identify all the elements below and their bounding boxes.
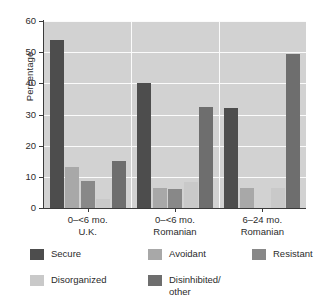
x-axis-tick-label: 0–<6 mo.U.K. [40, 214, 136, 237]
y-axis-tick-label: 10 [0, 171, 36, 182]
gridline [44, 146, 306, 147]
gridline [44, 115, 306, 116]
legend-swatch [30, 249, 44, 260]
x-label-line-1: 0–<6 mo. [40, 214, 136, 226]
chart-legend: SecureAvoidantResistantDisorganizedDisin… [30, 248, 318, 304]
y-axis-tick [39, 83, 44, 84]
legend-swatch [30, 275, 44, 286]
y-axis-tick [39, 146, 44, 147]
y-axis-tick [39, 177, 44, 178]
bar [240, 188, 254, 208]
plot-area [44, 21, 306, 208]
x-axis-tick-label: 6–24 mo.Romanian [214, 214, 310, 237]
bar [50, 40, 64, 208]
gridline [44, 83, 306, 84]
gridline [44, 21, 306, 22]
y-axis-tick-label: 30 [0, 109, 36, 120]
y-axis-tick [39, 115, 44, 116]
bar [271, 188, 285, 208]
y-axis-tick-label: 20 [0, 140, 36, 151]
y-axis-tick-label: 50 [0, 46, 36, 57]
gridline [44, 52, 306, 53]
bar [168, 189, 182, 208]
legend-label: Avoidant [169, 248, 206, 260]
legend-item[interactable]: Disinhibited/ other [148, 274, 221, 297]
x-axis-tick [175, 208, 176, 212]
x-label-line-1: 6–24 mo. [214, 214, 310, 226]
legend-item[interactable]: Secure [30, 248, 81, 260]
bar [112, 161, 126, 208]
gridline [44, 177, 306, 178]
bar [96, 199, 110, 208]
bar [137, 83, 151, 208]
bar [65, 167, 79, 208]
legend-item[interactable]: Disorganized [30, 274, 106, 286]
y-axis-tick [39, 21, 44, 22]
y-axis-tick [39, 208, 44, 209]
x-axis-tick [262, 208, 263, 212]
bar [153, 188, 167, 208]
x-label-line-2: Romanian [127, 226, 223, 238]
bar [81, 181, 95, 208]
legend-swatch [252, 249, 266, 260]
y-axis-tick-label: 40 [0, 77, 36, 88]
bar [184, 182, 198, 208]
x-axis-tick-label: 0–<6 mo.Romanian [127, 214, 223, 237]
y-axis-tick-label: 0 [0, 202, 36, 213]
y-axis-tick [39, 52, 44, 53]
bar [199, 107, 213, 208]
bar-chart-figure: Percentage 0102030405060 0–<6 mo.U.K.0–<… [0, 0, 325, 306]
legend-item[interactable]: Resistant [252, 248, 313, 260]
group-separator [219, 21, 220, 208]
bar [224, 108, 238, 208]
x-axis-tick [88, 208, 89, 212]
x-label-line-2: U.K. [40, 226, 136, 238]
y-axis-tick-label: 60 [0, 15, 36, 26]
legend-label: Disinhibited/ other [169, 274, 221, 297]
group-separator [131, 21, 132, 208]
bar [286, 54, 300, 208]
x-label-line-1: 0–<6 mo. [127, 214, 223, 226]
legend-label: Secure [51, 248, 81, 260]
legend-item[interactable]: Avoidant [148, 248, 206, 260]
x-label-line-2: Romanian [214, 226, 310, 238]
legend-swatch [148, 249, 162, 260]
legend-label: Resistant [273, 248, 313, 260]
legend-label: Disorganized [51, 274, 106, 286]
legend-swatch [148, 275, 162, 286]
